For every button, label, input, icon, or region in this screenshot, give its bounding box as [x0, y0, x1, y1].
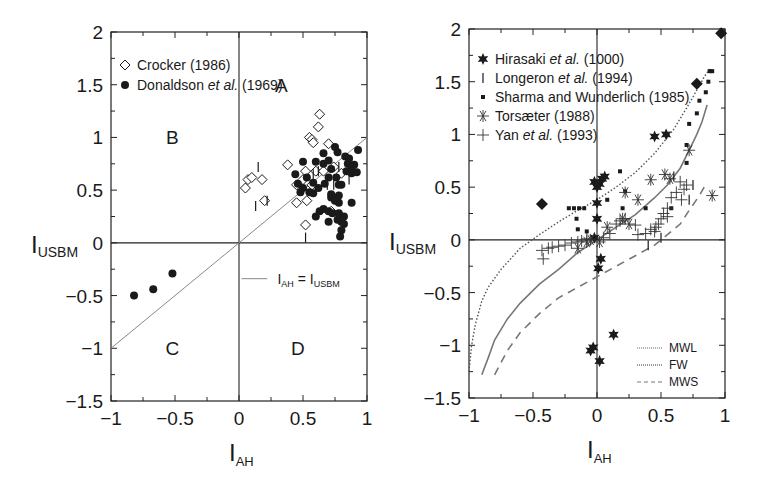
filled-star-marker: [592, 197, 602, 209]
legend-entry: Sharma and Wunderlich (1985): [481, 89, 689, 105]
y-tick-label: −1.5: [423, 388, 461, 409]
plus-marker: [559, 239, 571, 251]
y-tick-label: 0: [450, 230, 461, 251]
filled-square-marker: [582, 206, 586, 210]
filled-circle-marker: [325, 157, 333, 165]
open-diamond-marker: [301, 220, 311, 230]
filled-circle-marker: [309, 189, 317, 197]
filled-circle-marker: [121, 81, 129, 89]
filled-circle-marker: [325, 173, 333, 181]
filled-square-marker: [621, 206, 625, 210]
y-tick-label: 2: [450, 19, 461, 40]
x-tick-label: 1: [720, 405, 731, 426]
plus-marker: [553, 240, 565, 252]
x-tick-label: 1: [362, 408, 373, 429]
y-axis-label-sub: USBM: [38, 244, 78, 260]
plus-marker: [536, 244, 548, 256]
x-tick-label: −0.5: [514, 405, 552, 426]
open-diamond-marker: [120, 60, 130, 70]
chart-left: −1−0.500.5121.510.50−0.5−1−1.5IAHIUSBMAB…: [31, 22, 372, 469]
filled-circle-marker: [303, 173, 311, 181]
filled-circle-marker: [337, 181, 345, 189]
y-tick-label: 1.5: [77, 75, 103, 96]
filled-star-marker: [593, 262, 603, 274]
plus-marker: [565, 237, 577, 249]
filled-square-marker: [577, 206, 581, 210]
x-axis-label: IAH: [587, 436, 612, 466]
y-tick-label: 2: [92, 22, 103, 43]
filled-square-marker: [575, 217, 579, 221]
legend-entry: Hirasaki et al. (1000): [478, 51, 624, 67]
filled-circle-marker: [348, 199, 356, 207]
asterisk-marker: [632, 194, 644, 206]
plus-marker: [675, 194, 687, 206]
y-tick-label: 1: [450, 124, 461, 145]
filled-square-marker: [481, 95, 485, 99]
filled-star-marker: [661, 128, 671, 140]
y-tick-label: −0.5: [65, 286, 103, 307]
filled-circle-marker: [319, 149, 327, 157]
y-tick-label: −0.5: [423, 283, 461, 304]
filled-diamond-marker: [691, 78, 703, 90]
y-tick-label: 0.5: [435, 177, 461, 198]
y-axis-label-sub: USBM: [396, 241, 436, 257]
legend-entry: Yan et al. (1993): [477, 127, 597, 143]
asterisk-marker: [706, 190, 718, 202]
filled-circle-marker: [345, 155, 353, 163]
filled-circle-marker: [350, 161, 358, 169]
asterisk-marker: [477, 110, 489, 122]
legend-label: Hirasaki et al. (1000): [495, 51, 624, 67]
open-diamond-marker: [292, 198, 302, 208]
y-tick-label: 0.5: [77, 180, 103, 201]
filled-star-marker: [478, 53, 488, 65]
legend-label: Crocker (1986): [137, 57, 230, 73]
filled-circle-marker: [325, 218, 333, 226]
filled-circle-marker: [130, 292, 138, 300]
legend-label: Donaldson et al. (1969): [137, 77, 283, 93]
filled-star-marker: [594, 355, 604, 367]
quadrant-label-d: D: [291, 338, 305, 359]
x-tick-label: 0: [234, 408, 245, 429]
legend: Hirasaki et al. (1000)Longeron et al. (1…: [477, 51, 689, 143]
y-tick-label: −1.5: [65, 391, 103, 412]
open-diamond-marker: [283, 160, 293, 170]
wettability-index-charts: −1−0.500.5121.510.50−0.5−1−1.5IAHIUSBMAB…: [0, 0, 758, 485]
asterisk-marker: [601, 221, 613, 233]
y-axis-label: IUSBM: [31, 231, 78, 260]
filled-circle-marker: [354, 146, 362, 154]
line-legend: IAH = IUSBM: [242, 271, 340, 289]
legend-entry: Crocker (1986): [120, 57, 230, 73]
y-axis-label: IUSBM: [389, 228, 436, 257]
filled-square-marker: [687, 122, 691, 126]
filled-diamond-marker: [536, 198, 548, 210]
figure: −1−0.500.5121.510.50−0.5−1−1.5IAHIUSBMAB…: [0, 0, 758, 485]
legend-label: Longeron et al. (1994): [495, 70, 633, 86]
open-diamond-marker: [313, 122, 323, 132]
legend-entry: Longeron et al. (1994): [483, 70, 633, 86]
filled-circle-marker: [168, 269, 176, 277]
filled-circle-marker: [334, 148, 342, 156]
filled-square-marker: [576, 227, 580, 231]
filled-square-marker: [710, 69, 714, 73]
filled-circle-marker: [296, 188, 304, 196]
x-tick-label: 0.5: [290, 408, 316, 429]
x-tick-label: −0.5: [156, 408, 194, 429]
filled-circle-marker: [340, 213, 348, 221]
filled-circle-marker: [353, 168, 361, 176]
x-axis-label: IAH: [229, 439, 254, 469]
filled-circle-marker: [312, 158, 320, 166]
legend-entry: Torsæter (1988): [477, 108, 595, 124]
y-tick-label: 1.5: [435, 72, 461, 93]
curve-legend-label: FW: [669, 358, 688, 372]
filled-circle-marker: [294, 180, 302, 188]
open-diamond-marker: [257, 175, 267, 185]
asterisk-marker: [619, 186, 631, 198]
filled-square-marker: [572, 206, 576, 210]
legend-label: Sharma and Wunderlich (1985): [495, 89, 689, 105]
series-plus: [536, 176, 693, 265]
plus-marker: [670, 186, 682, 198]
y-tick-label: 1: [92, 127, 103, 148]
legend-label: Yan et al. (1993): [495, 127, 597, 143]
series-filled-circle: [130, 143, 362, 300]
filled-star-marker: [608, 329, 618, 341]
